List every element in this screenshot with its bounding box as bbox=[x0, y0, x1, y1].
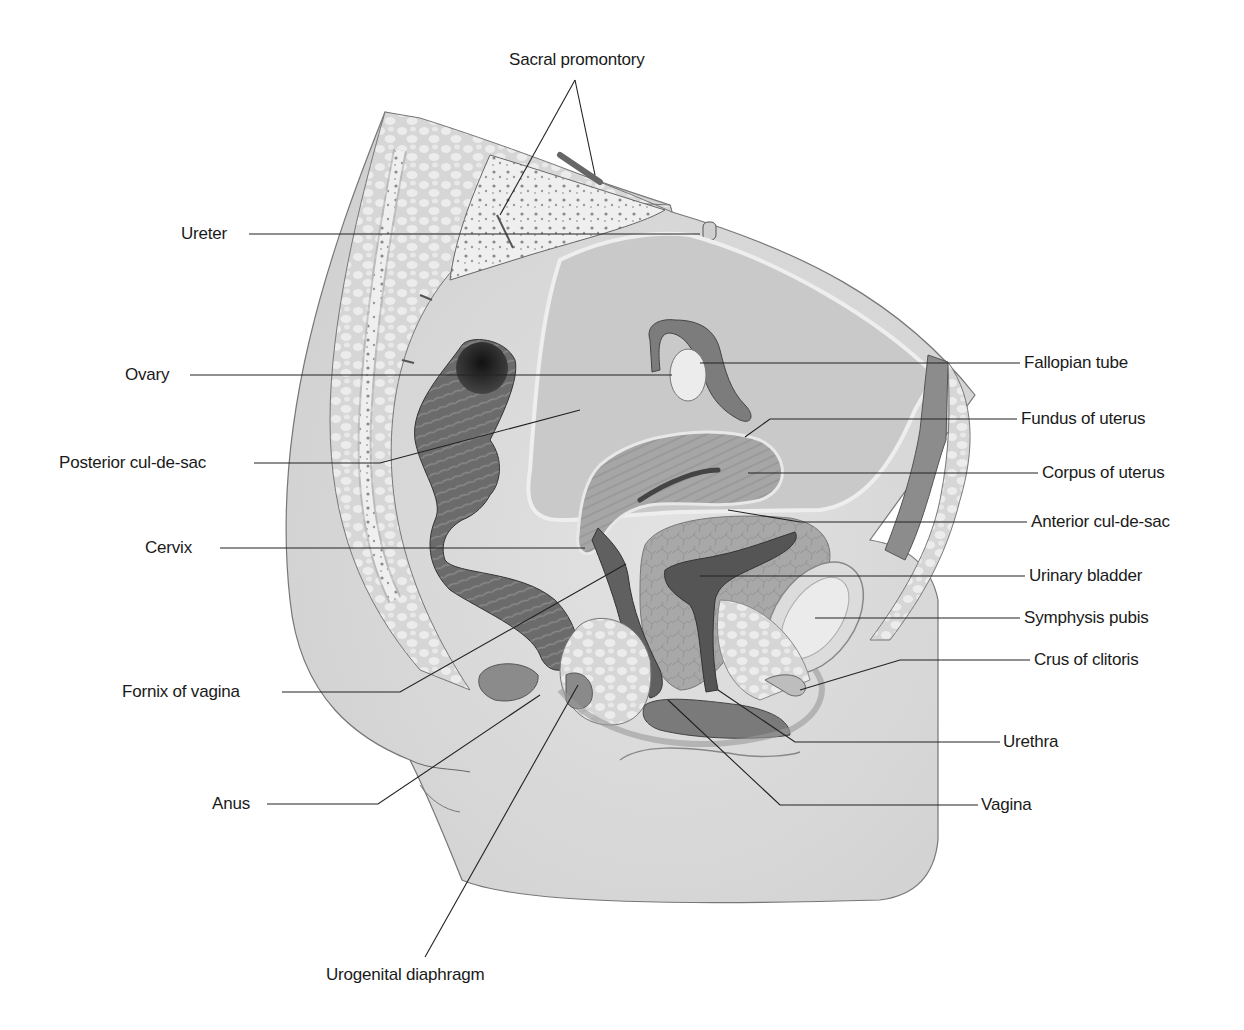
label-fallopian-tube: Fallopian tube bbox=[1024, 353, 1128, 373]
label-urethra: Urethra bbox=[1003, 732, 1058, 752]
label-crus-of-clitoris: Crus of clitoris bbox=[1034, 650, 1139, 670]
label-vagina: Vagina bbox=[981, 795, 1031, 815]
label-urinary-bladder: Urinary bladder bbox=[1029, 566, 1142, 586]
ovary-dark-shadow bbox=[456, 342, 508, 394]
label-corpus-of-uterus: Corpus of uterus bbox=[1042, 463, 1164, 483]
ovary bbox=[670, 349, 706, 401]
label-ovary: Ovary bbox=[125, 365, 169, 385]
label-posterior-cul-de-sac: Posterior cul-de-sac bbox=[59, 453, 206, 473]
label-anterior-cul-de-sac: Anterior cul-de-sac bbox=[1031, 512, 1170, 532]
label-cervix: Cervix bbox=[145, 538, 192, 558]
label-sacral-promontory: Sacral promontory bbox=[509, 50, 645, 70]
label-anus: Anus bbox=[212, 794, 250, 814]
label-fundus-of-uterus: Fundus of uterus bbox=[1021, 409, 1145, 429]
label-urogenital-diaphragm: Urogenital diaphragm bbox=[326, 965, 485, 985]
pelvis-diagram: Sacral promontory Ureter Ovary Posterior… bbox=[0, 0, 1244, 1030]
label-ureter: Ureter bbox=[181, 224, 227, 244]
label-fornix-of-vagina: Fornix of vagina bbox=[122, 682, 240, 702]
label-symphysis-pubis: Symphysis pubis bbox=[1024, 608, 1149, 628]
